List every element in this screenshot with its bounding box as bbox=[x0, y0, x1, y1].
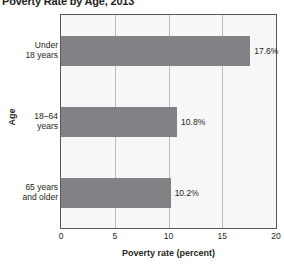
category-label-line: Under bbox=[0, 40, 58, 50]
x-axis-tick-label: 5 bbox=[112, 231, 117, 241]
poverty-rate-bar-chart: Poverty Rate by Age, 2013 Age Under 18 y… bbox=[0, 0, 284, 268]
category-label-line: and older bbox=[0, 192, 58, 202]
bar bbox=[61, 107, 177, 137]
category-label-line: 65 years bbox=[0, 182, 58, 192]
x-axis-tick-label: 20 bbox=[271, 231, 280, 241]
bar-value-label: 10.8% bbox=[181, 107, 205, 137]
category-label-65-and-older: 65 years and older bbox=[0, 182, 58, 202]
chart-title: Poverty Rate by Age, 2013 bbox=[2, 0, 134, 7]
bar bbox=[61, 36, 250, 66]
x-axis-tick-label: 10 bbox=[164, 231, 173, 241]
x-axis-tick-labels: 05101520 bbox=[60, 231, 277, 243]
plot-area: 17.6%10.8%10.2% bbox=[60, 14, 277, 229]
bar-value-label: 10.2% bbox=[175, 178, 199, 208]
category-label-line: 18 years bbox=[0, 50, 58, 60]
bar-value-label: 17.6% bbox=[254, 36, 278, 66]
x-axis-title: Poverty rate (percent) bbox=[60, 248, 277, 258]
x-axis-tick-label: 0 bbox=[59, 231, 64, 241]
category-label-under-18: Under 18 years bbox=[0, 40, 58, 60]
x-axis-tick-label: 15 bbox=[218, 231, 227, 241]
bar-series: 17.6%10.8%10.2% bbox=[61, 15, 276, 228]
category-axis-labels: Under 18 years 18–64 years 65 years and … bbox=[0, 14, 58, 229]
category-label-18-64: 18–64 years bbox=[0, 111, 58, 131]
bar bbox=[61, 178, 171, 208]
category-label-line: years bbox=[0, 121, 58, 131]
category-label-line: 18–64 bbox=[0, 111, 58, 121]
